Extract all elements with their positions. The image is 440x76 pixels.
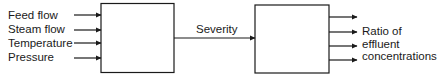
input-label-pressure: Pressure <box>8 51 54 64</box>
input-label-temperature: Temperature <box>8 37 73 50</box>
input-label-feed-flow: Feed flow <box>8 9 58 22</box>
severity-label: Severity <box>196 23 238 36</box>
input-arrows <box>74 15 101 58</box>
output-label: Ratio of effluent concentrations <box>362 25 437 63</box>
output-arrows <box>329 17 357 60</box>
output-label-line-2: effluent <box>362 38 437 51</box>
process-block-1 <box>101 4 174 73</box>
output-label-line-3: concentrations <box>362 50 437 63</box>
process-block-2 <box>255 5 329 73</box>
input-label-steam-flow: Steam flow <box>8 23 65 36</box>
output-label-line-1: Ratio of <box>362 25 437 38</box>
